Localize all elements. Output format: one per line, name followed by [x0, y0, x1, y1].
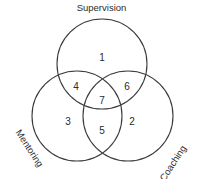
- region-label-mentoring-only: 3: [65, 117, 71, 127]
- set-label-supervision: Supervision: [77, 3, 127, 13]
- region-label-coaching-only: 2: [129, 117, 135, 127]
- region-label-supervision-mentoring: 4: [73, 82, 79, 92]
- venn-diagram-canvas: Supervision Mentoring Coaching 1 2 3 4 5…: [0, 0, 203, 179]
- region-label-mentoring-coaching: 5: [99, 126, 105, 136]
- region-label-supervision-coaching: 6: [124, 82, 130, 92]
- region-label-supervision-only: 1: [99, 53, 105, 63]
- region-label-all-three: 7: [99, 96, 105, 106]
